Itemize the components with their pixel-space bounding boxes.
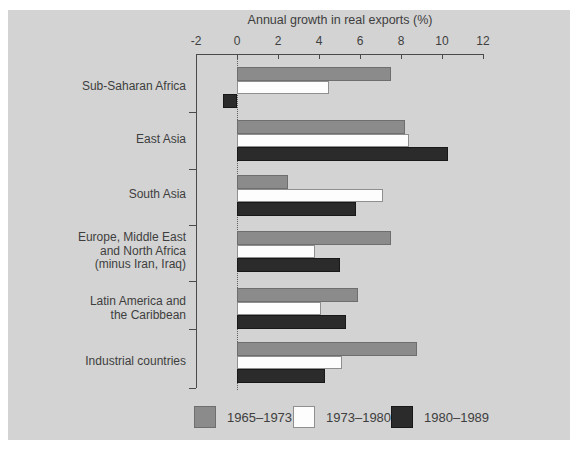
category-boundary-tick — [189, 388, 196, 389]
bar-latin-america-and-the-ca-1980-1989 — [237, 315, 346, 329]
legend-label-1980-1989: 1980–1989 — [424, 410, 489, 425]
x-axis-tick-label: 2 — [275, 34, 282, 48]
legend-label-1973-1980: 1973–1980 — [326, 410, 391, 425]
legend-label-1965-1973: 1965–1973 — [227, 410, 292, 425]
x-axis-tick-label: 0 — [234, 34, 241, 48]
export-growth-figure: Annual growth in real exports (%) -20246… — [0, 0, 585, 453]
category-label-line: East Asia — [36, 133, 186, 147]
category-boundary-tick — [189, 169, 196, 170]
category-label-latin-america-and-the-caribbea: Latin America andthe Caribbean — [36, 295, 186, 322]
category-label-industrial-countries: Industrial countries — [36, 355, 186, 369]
category-label-line: the Caribbean — [36, 308, 186, 322]
bar-industrial-countries-1980-1989 — [237, 369, 325, 383]
bar-industrial-countries-1973-1980 — [237, 356, 342, 370]
x-axis-tick — [360, 54, 361, 59]
x-axis-tick-label: 6 — [357, 34, 364, 48]
bar-europe-middle-east-and-n-1965-1973 — [237, 231, 391, 245]
x-axis-tick — [483, 54, 484, 59]
bar-sub-saharan-africa-1965-1973 — [237, 67, 391, 81]
category-label-line: and North Africa — [36, 244, 186, 258]
category-axis-line — [196, 54, 197, 388]
x-axis-tick — [319, 54, 320, 59]
category-boundary-tick — [189, 329, 196, 330]
category-label-line: Latin America and — [36, 295, 186, 309]
x-axis-tick — [196, 54, 197, 59]
legend-swatch-1973-1980 — [293, 406, 315, 428]
bar-europe-middle-east-and-n-1973-1980 — [237, 245, 315, 259]
legend-swatch-1965-1973 — [194, 406, 216, 428]
bar-latin-america-and-the-ca-1973-1980 — [237, 302, 321, 316]
bar-south-asia-1973-1980 — [237, 189, 383, 203]
x-axis-tick — [401, 54, 402, 59]
category-label-line: Sub-Saharan Africa — [36, 80, 186, 94]
x-axis-tick-label: 4 — [316, 34, 323, 48]
category-label-europe-middle-east-and-north-a: Europe, Middle Eastand North Africa(minu… — [36, 231, 186, 272]
x-axis-tick-label: 8 — [398, 34, 405, 48]
category-label-line: Europe, Middle East — [36, 231, 186, 245]
zero-baseline — [237, 54, 238, 390]
bar-south-asia-1980-1989 — [237, 202, 356, 216]
category-label-south-asia: South Asia — [36, 188, 186, 202]
bar-sub-saharan-africa-1973-1980 — [237, 81, 329, 95]
x-axis-tick-label: -2 — [191, 34, 202, 48]
chart-title: Annual growth in real exports (%) — [196, 13, 484, 27]
category-label-east-asia: East Asia — [36, 133, 186, 147]
x-axis-line — [196, 54, 484, 55]
x-axis-tick — [237, 54, 238, 59]
category-boundary-tick — [189, 281, 196, 282]
legend-swatch-1980-1989 — [391, 406, 413, 428]
bar-industrial-countries-1965-1973 — [237, 342, 417, 356]
x-axis-tick-label: 10 — [435, 34, 448, 48]
bar-south-asia-1965-1973 — [237, 175, 288, 189]
category-boundary-tick — [189, 112, 196, 113]
category-boundary-tick — [189, 225, 196, 226]
category-label-line: Industrial countries — [36, 355, 186, 369]
category-label-line: (minus Iran, Iraq) — [36, 258, 186, 272]
x-axis-tick-label: 12 — [476, 34, 489, 48]
bar-east-asia-1980-1989 — [237, 147, 448, 161]
category-label-line: South Asia — [36, 188, 186, 202]
bar-europe-middle-east-and-n-1980-1989 — [237, 258, 340, 272]
bar-sub-saharan-africa-1980-1989 — [223, 94, 237, 108]
x-axis-tick — [442, 54, 443, 59]
x-axis-tick — [278, 54, 279, 59]
category-label-sub-saharan-africa: Sub-Saharan Africa — [36, 80, 186, 94]
bar-east-asia-1965-1973 — [237, 120, 405, 134]
bar-latin-america-and-the-ca-1965-1973 — [237, 288, 358, 302]
bar-chart: Annual growth in real exports (%) -20246… — [0, 0, 585, 453]
bar-east-asia-1973-1980 — [237, 134, 409, 148]
